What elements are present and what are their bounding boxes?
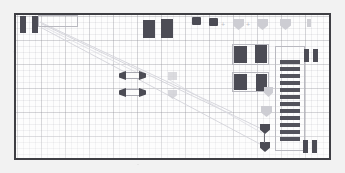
component-pad[interactable] [234,46,247,63]
resistor-array-bar[interactable] [280,123,300,127]
ghost-component[interactable] [168,72,177,80]
resistor-array-bar[interactable] [280,102,300,106]
shield-footprint[interactable] [260,142,270,152]
trace-segment [264,133,265,143]
component-pad[interactable] [143,20,155,38]
resistor-array-bar[interactable] [280,60,300,64]
resistor-array[interactable] [280,60,300,144]
resistor-array-bar[interactable] [280,88,300,92]
origin-marker-icon: + [221,21,225,28]
connector-pad[interactable] [312,140,317,153]
shield-footprint[interactable] [257,19,268,30]
resistor-array-bar[interactable] [280,137,300,141]
component-pad[interactable] [255,45,267,63]
two-terminal-component[interactable] [119,71,146,80]
component-pad[interactable] [192,17,201,25]
component-pad[interactable] [209,18,218,26]
shield-footprint[interactable] [260,124,270,134]
shield-footprint[interactable] [261,106,272,117]
resistor-array-bar[interactable] [280,81,300,85]
shield-footprint[interactable] [233,19,244,30]
test-point-pad[interactable] [307,19,311,27]
board-outline[interactable]: + + [14,13,331,160]
resistor-array-bar[interactable] [280,130,300,134]
connector-pad[interactable] [304,49,309,62]
resistor-array-bar[interactable] [280,74,300,78]
origin-marker-icon: + [246,21,250,28]
two-terminal-component[interactable] [119,88,146,97]
resistor-array-bar[interactable] [280,116,300,120]
resistor-array-bar[interactable] [280,95,300,99]
component-pad[interactable] [161,19,173,38]
connector-pad[interactable] [303,140,308,153]
component-pad[interactable] [20,16,26,33]
component-pad[interactable] [32,16,38,33]
resistor-array-bar[interactable] [280,67,300,71]
resistor-array-bar[interactable] [280,109,300,113]
component-pad[interactable] [234,74,247,90]
ghost-component[interactable] [168,90,177,99]
shield-footprint[interactable] [264,87,273,97]
screenshot-root: + + [0,0,345,173]
silk-outline[interactable] [38,15,78,27]
connector-pad[interactable] [313,49,318,62]
shield-footprint[interactable] [280,19,291,30]
